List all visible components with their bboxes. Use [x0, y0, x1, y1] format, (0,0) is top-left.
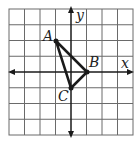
point-a-label: A	[41, 28, 53, 44]
point-b	[85, 70, 90, 75]
point-c-label: C	[58, 88, 69, 104]
point-b-label: B	[88, 54, 99, 70]
coordinate-plane: x y A B C	[0, 0, 140, 144]
y-axis-label: y	[75, 7, 85, 23]
point-a	[54, 39, 59, 44]
point-c	[69, 86, 74, 91]
x-axis-label: x	[121, 55, 129, 71]
